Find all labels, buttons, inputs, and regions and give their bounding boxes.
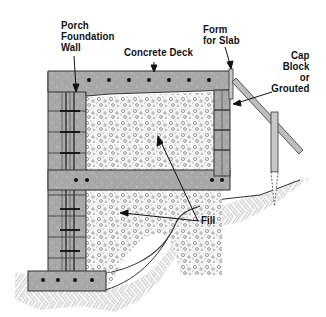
middle-beam — [48, 170, 230, 190]
right-block-column — [214, 90, 230, 176]
label-line: for Slab — [203, 35, 240, 46]
label-cap-block: Cap Block or Grouted — [272, 50, 310, 94]
label-fill: Fill — [201, 215, 215, 226]
label-concrete-deck: Concrete Deck — [124, 47, 193, 58]
label-form-for-slab: Form for Slab — [203, 24, 240, 46]
label-line: Grouted — [272, 83, 310, 94]
footing — [28, 271, 106, 291]
label-line: Fill — [201, 215, 215, 226]
label-line: Wall — [61, 42, 115, 53]
label-line: Concrete Deck — [124, 47, 193, 58]
label-porch-foundation-wall: Porch Foundation Wall — [61, 20, 115, 53]
